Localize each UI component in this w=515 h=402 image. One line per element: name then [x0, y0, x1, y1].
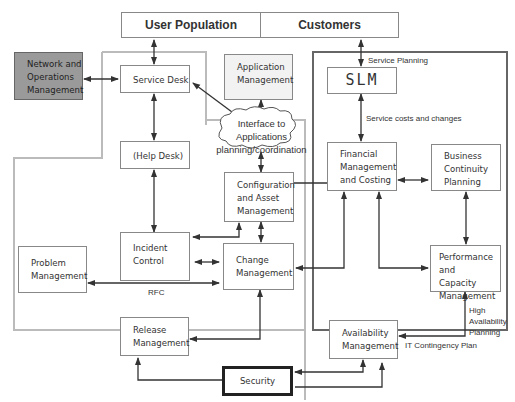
security-box: Security: [222, 366, 293, 396]
financial-management-box: Financial Management and Costing: [327, 142, 397, 191]
interface-applications-cloud: Interface to Applications planning/coord…: [214, 117, 309, 156]
change-management-box: Change Management: [223, 243, 294, 290]
service-planning-label: Service Planning: [368, 56, 428, 65]
user-population-box: User Population: [121, 12, 261, 38]
problem-management-box: Problem Management: [18, 246, 87, 293]
help-desk-box: (Help Desk): [120, 141, 190, 169]
business-continuity-box: Business Continuity Planning: [431, 144, 501, 191]
user-population-label: User Population: [122, 13, 260, 37]
service-costs-label: Service costs and changes: [366, 114, 462, 123]
availability-management-box: Availability Management: [329, 320, 398, 359]
service-desk-box: Service Desk: [120, 65, 190, 93]
network-operations-box: Network and Operations Management: [14, 52, 83, 100]
customers-box: Customers: [260, 12, 399, 38]
performance-capacity-box: Performance and Capacity Management: [430, 245, 501, 292]
rfc-label: RFC: [148, 288, 164, 297]
slm-box: SLM: [327, 67, 397, 94]
it-contingency-label: IT Contingency Plan: [405, 341, 477, 350]
customers-label: Customers: [261, 13, 398, 37]
incident-control-box: Incident Control: [120, 232, 190, 281]
high-availability-label: High Availability Planning: [469, 305, 507, 338]
configuration-asset-box: Configuration and Asset Management: [224, 172, 294, 222]
release-management-box: Release Management: [120, 317, 189, 356]
application-management-box: Application Management: [224, 54, 293, 100]
